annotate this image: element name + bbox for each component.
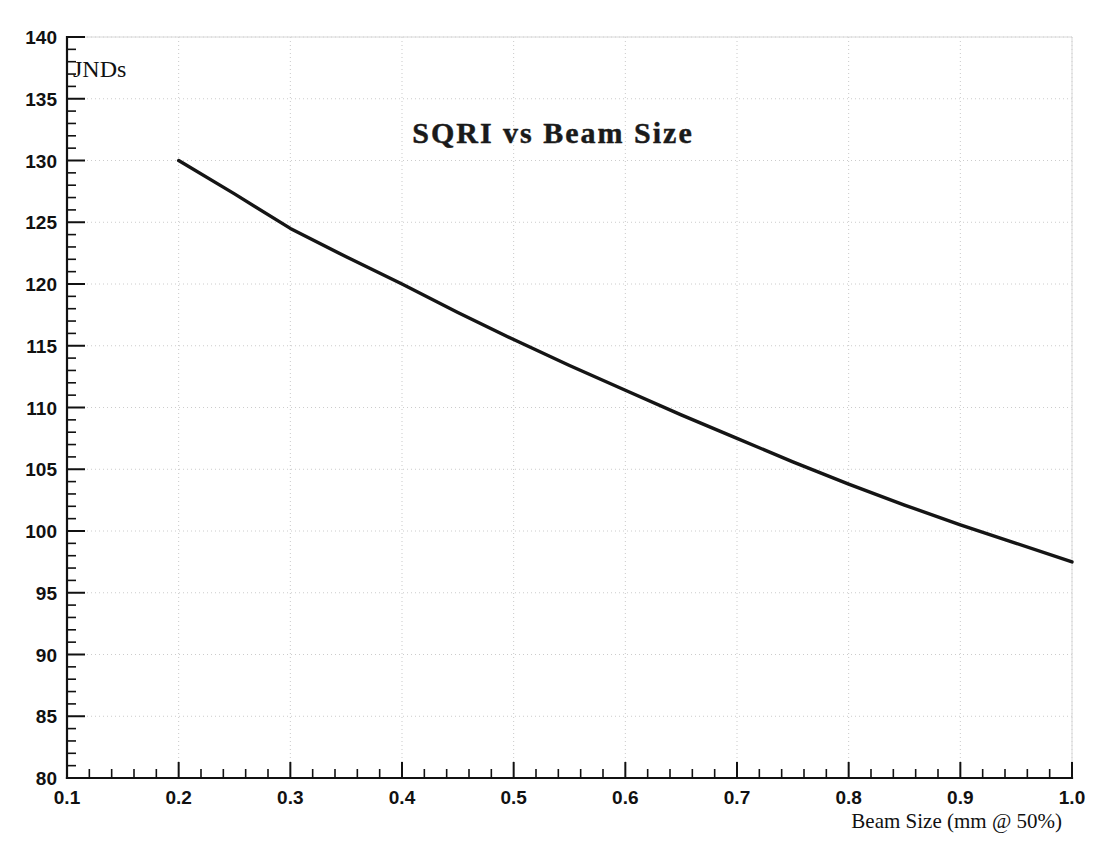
y-tick-label: 140 <box>25 27 57 48</box>
sqri-vs-beam-size-chart: 0.10.20.30.40.50.60.70.80.91.08085909510… <box>0 0 1106 864</box>
y-tick-label: 130 <box>25 151 57 172</box>
x-tick-label: 0.3 <box>277 787 303 808</box>
y-tick-label: 100 <box>25 521 57 542</box>
y-tick-label: 90 <box>36 645 57 666</box>
y-tick-label: 110 <box>26 398 57 419</box>
y-tick-label: 80 <box>36 768 57 789</box>
y-tick-label: 115 <box>26 336 57 357</box>
x-tick-label: 0.6 <box>612 787 638 808</box>
y-tick-label: 85 <box>36 706 58 727</box>
x-tick-label: 0.4 <box>389 787 416 808</box>
x-tick-label: 0.5 <box>500 787 527 808</box>
chart-title: SQRI vs Beam Size <box>412 116 694 149</box>
y-tick-label: 105 <box>25 459 57 480</box>
x-tick-label: 0.8 <box>835 787 861 808</box>
y-axis-unit-label: JNDs <box>73 56 126 82</box>
x-tick-label: 0.9 <box>947 787 973 808</box>
y-tick-label: 125 <box>25 212 57 233</box>
x-tick-label: 0.7 <box>724 787 750 808</box>
x-tick-label: 0.2 <box>165 787 191 808</box>
x-axis-title: Beam Size (mm @ 50%) <box>851 809 1062 833</box>
y-tick-label: 95 <box>36 583 58 604</box>
y-tick-label: 120 <box>25 274 57 295</box>
x-tick-label: 1.0 <box>1059 787 1085 808</box>
y-tick-label: 135 <box>25 89 57 110</box>
x-tick-label: 0.1 <box>54 787 81 808</box>
chart-figure: 0.10.20.30.40.50.60.70.80.91.08085909510… <box>0 0 1106 864</box>
